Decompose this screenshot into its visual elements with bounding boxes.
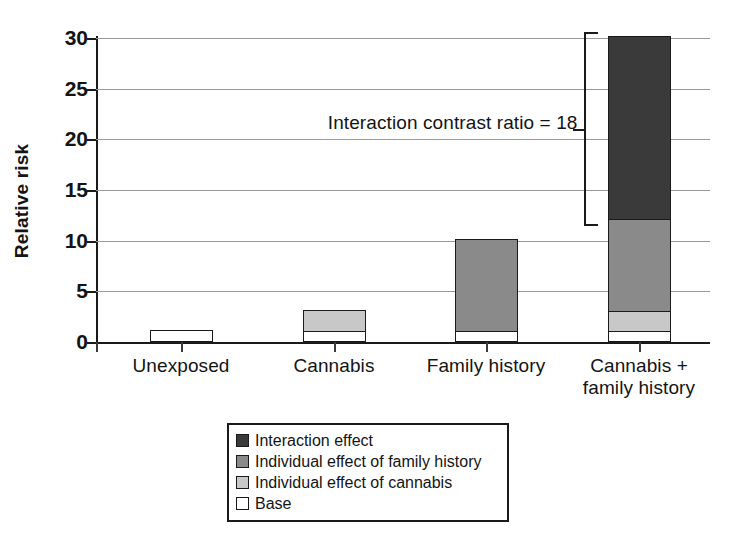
x-axis-label-line: Cannabis bbox=[254, 355, 414, 377]
legend-item: Interaction effect bbox=[236, 430, 500, 451]
y-axis-tick-label: 15 bbox=[40, 179, 88, 200]
x-axis-label: Unexposed bbox=[101, 355, 261, 377]
y-axis-tick-label: 25 bbox=[40, 78, 88, 99]
bar-segment bbox=[608, 36, 671, 220]
x-axis-tick bbox=[334, 342, 336, 352]
bar-segment bbox=[303, 310, 366, 332]
x-axis-label-line: Cannabis + bbox=[559, 355, 719, 377]
x-axis-tick bbox=[486, 342, 488, 352]
y-axis-tick-labels: 051015202530 bbox=[40, 0, 88, 549]
legend-item: Individual effect of cannabis bbox=[236, 472, 500, 493]
bar-segment bbox=[608, 330, 671, 342]
legend-item: Individual effect of family history bbox=[236, 451, 500, 472]
legend-item-label: Interaction effect bbox=[255, 432, 373, 450]
bar-group bbox=[608, 38, 671, 342]
bar-segment bbox=[455, 330, 518, 342]
bracket-vertical bbox=[584, 32, 586, 226]
x-axis-label-line: Unexposed bbox=[101, 355, 261, 377]
x-axis-tick bbox=[639, 342, 641, 352]
x-axis-label: Cannabis bbox=[254, 355, 414, 377]
relative-risk-stacked-bar-chart: Relative risk 051015202530 Interaction c… bbox=[0, 0, 743, 549]
y-axis-tick bbox=[87, 38, 96, 40]
x-axis-label: Cannabis +family history bbox=[559, 355, 719, 400]
bar-group bbox=[455, 38, 518, 342]
legend-swatch-icon bbox=[236, 455, 249, 468]
y-axis-tick bbox=[87, 190, 96, 192]
y-axis-tick-label: 5 bbox=[40, 280, 88, 301]
y-axis-tick-label: 10 bbox=[40, 230, 88, 251]
bar-segment bbox=[150, 330, 213, 342]
legend-item-label: Base bbox=[255, 495, 291, 513]
x-axis-line bbox=[96, 342, 710, 344]
x-axis-label: Family history bbox=[406, 355, 566, 377]
bar-group bbox=[150, 38, 213, 342]
legend-swatch-icon bbox=[236, 476, 249, 489]
y-axis-tick-label: 30 bbox=[40, 27, 88, 48]
bar-segment bbox=[303, 330, 366, 342]
legend-item-label: Individual effect of cannabis bbox=[255, 474, 452, 492]
bar-group bbox=[303, 38, 366, 342]
x-axis-label-line: family history bbox=[559, 377, 719, 399]
legend-item: Base bbox=[236, 493, 500, 514]
y-axis-tick bbox=[87, 139, 96, 141]
y-axis-tick-label: 20 bbox=[40, 128, 88, 149]
y-axis-tick bbox=[87, 291, 96, 293]
x-axis-tick-origin bbox=[96, 342, 98, 352]
y-axis-tick bbox=[87, 89, 96, 91]
bracket-arm-top bbox=[584, 32, 598, 34]
y-axis-tick bbox=[87, 342, 96, 344]
bracket-arm-bottom bbox=[584, 224, 598, 226]
y-axis-title: Relative risk bbox=[11, 101, 33, 301]
legend-swatch-icon bbox=[236, 497, 249, 510]
legend-item-label: Individual effect of family history bbox=[255, 453, 481, 471]
bar-segment bbox=[455, 239, 518, 332]
bar-segment bbox=[608, 310, 671, 332]
chart-legend: Interaction effectIndividual effect of f… bbox=[227, 423, 509, 522]
x-axis-category-labels: UnexposedCannabisFamily historyCannabis … bbox=[96, 355, 710, 415]
interaction-contrast-annotation: Interaction contrast ratio = 18 bbox=[328, 112, 578, 134]
y-axis-tick-label: 0 bbox=[40, 331, 88, 352]
bar-segment bbox=[608, 219, 671, 312]
legend-swatch-icon bbox=[236, 434, 249, 447]
interaction-bracket bbox=[584, 32, 600, 226]
x-axis-tick bbox=[181, 342, 183, 352]
y-axis-tick bbox=[87, 241, 96, 243]
plot-area: Interaction contrast ratio = 18 bbox=[96, 38, 710, 342]
x-axis-label-line: Family history bbox=[406, 355, 566, 377]
